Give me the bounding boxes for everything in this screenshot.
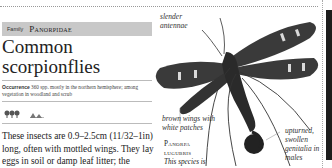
caption-wings: brown wings with white patches (162, 114, 222, 132)
woodland-icon (4, 110, 20, 118)
family-label: Family (7, 26, 23, 32)
divider-rule (2, 101, 152, 102)
top-dotted-rule (0, 6, 318, 7)
page-title: Common scorpionflies (2, 37, 152, 77)
body-paragraph: These insects are 0.9–2.5cm (11/32–1in) … (2, 130, 154, 168)
species-description: This species is (164, 158, 219, 167)
adjacent-photo-strip (326, 10, 332, 160)
scrub-icon (30, 112, 44, 118)
species-epithet: lugubris (164, 149, 219, 158)
caption-genitalia: upturned, swollen genitalia in males (285, 126, 321, 162)
column-divider (322, 0, 323, 168)
family-bar: Family Panorpidae (2, 22, 152, 36)
caption-antennae: slender antennae (160, 12, 200, 30)
occurrence-label: Occurrence (2, 84, 30, 90)
habitat-icons (4, 110, 44, 118)
species-genus: Panorpa (164, 140, 219, 149)
species-label: Panorpa lugubris This species is (164, 140, 219, 167)
divider-rule (2, 80, 152, 81)
family-name: Panorpidae (29, 24, 72, 34)
occurrence-box: Occurrence 360 spp. mostly in the northe… (2, 84, 157, 98)
divider-rule (2, 123, 152, 124)
